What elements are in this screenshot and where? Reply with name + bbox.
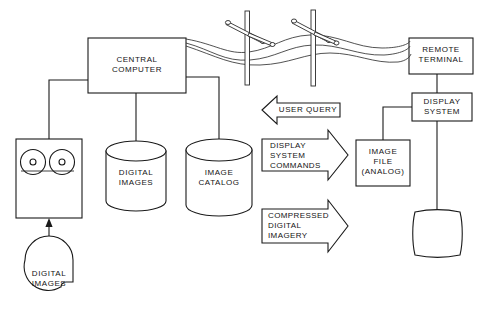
- image-file-label: IMAGE FILE (ANALOG): [356, 147, 410, 177]
- overhead-transmission-line: [186, 10, 411, 86]
- digital-images-store-label: DIGITAL IMAGES: [106, 168, 166, 188]
- tape-drive-unit: [16, 139, 82, 218]
- wire-upper: [186, 35, 410, 53]
- utility-pole-1: [225, 11, 275, 85]
- digital-images-tape-label: DIGITAL IMAGES: [25, 269, 73, 289]
- image-catalog-store-label: IMAGE CATALOG: [186, 168, 252, 188]
- monitor-crt: [413, 210, 463, 258]
- user-query-arrow-label: USER QUERY: [277, 105, 339, 115]
- wire-middle: [186, 43, 410, 60]
- diagram-canvas: CENTRAL COMPUTER DIGITAL IMAGES IMAGE CA…: [0, 0, 483, 313]
- utility-pole-2: [291, 10, 339, 86]
- display-system-commands-arrow-label: DISPLAY SYSTEM COMMANDS: [270, 141, 332, 171]
- compressed-digital-imagery-arrow-label: COMPRESSED DIGITAL IMAGERY: [268, 211, 334, 241]
- remote-terminal-label: REMOTE TERMINAL: [409, 45, 473, 65]
- connector-cc-to-tape-drive: [49, 80, 88, 139]
- central-computer-label: CENTRAL COMPUTER: [88, 55, 186, 75]
- display-system-label: DISPLAY SYSTEM: [412, 97, 472, 117]
- connector-display-system-to-image-file: [383, 107, 412, 140]
- connector-cc-to-image-catalog: [186, 77, 219, 139]
- arrowhead-up-into-tape-drive: [45, 218, 52, 227]
